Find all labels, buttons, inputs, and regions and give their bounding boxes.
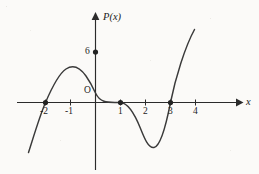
x-axis-label: x	[246, 97, 251, 108]
x-axis-arrowhead	[236, 99, 244, 107]
polynomial-curve	[29, 30, 195, 153]
point-root-1	[118, 100, 123, 105]
point-root--2	[43, 100, 48, 105]
graph-figure: P(x) x O 6 -2 -1 1 2 3 4	[0, 0, 259, 174]
x-tick-label--2: -2	[40, 107, 48, 117]
origin-label: O	[84, 86, 91, 96]
x-tick-label-4: 4	[193, 107, 198, 117]
x-tick-label-2: 2	[143, 107, 148, 117]
y-axis-label: P(x)	[103, 12, 121, 23]
point-y-intercept-6	[93, 49, 98, 54]
polynomial-graph-svg	[0, 0, 259, 174]
x-tick-label-3: 3	[168, 107, 173, 117]
y-axis-arrowhead	[92, 12, 100, 20]
x-tick-label--1: -1	[65, 107, 73, 117]
point-root-3	[168, 100, 173, 105]
y-tick-label-6: 6	[85, 47, 90, 57]
x-tick-label-1: 1	[118, 107, 123, 117]
